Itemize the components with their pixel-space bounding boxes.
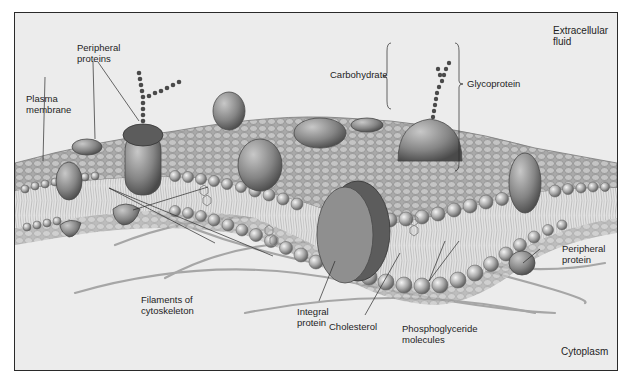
surface-protein-flat [351,118,383,132]
label-integral-protein: Integral protein [297,306,329,328]
label-peripheral-proteins: Peripheral proteins [77,42,120,64]
label-cytoplasm: Cytoplasm [561,346,608,357]
integral-protein-right [509,153,541,213]
carbohydrate-chain-left [137,71,182,124]
carbohydrate-chain-right [431,61,451,119]
label-glycoprotein: Glycoprotein [467,78,520,89]
peripheral-protein-right [509,251,535,275]
label-cholesterol: Cholesterol [329,321,377,332]
surface-protein-mid [294,118,346,148]
label-plasma-membrane: Plasma membrane [26,93,71,115]
label-peripheral-protein: Peripheral protein [562,243,605,265]
label-phosphoglyceride-molecules: Phosphoglyceride molecules [402,323,478,345]
integral-protein-mid [238,139,282,191]
integral-protein-channel [123,124,163,195]
peripheral-protein-left [72,139,102,155]
label-filaments-of-cytoskeleton: Filaments of cytoskeleton [141,294,194,316]
membrane-diagram: Extracellular fluid Peripheral proteins … [14,12,618,371]
integral-protein-left [56,162,82,200]
integral-protein-large [317,181,390,283]
label-extracellular-fluid: Extracellular fluid [553,25,608,47]
surface-protein-top [213,92,245,130]
label-carbohydrate: Carbohydrate [330,69,388,80]
